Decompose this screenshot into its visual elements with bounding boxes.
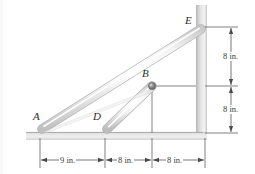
- dim-label-horizontal-1: 9 in.: [59, 156, 76, 165]
- label-point-e: E: [185, 15, 192, 26]
- dim-label-vertical-1: 8 in.: [222, 52, 239, 61]
- label-point-d: D: [93, 111, 101, 122]
- figure-background: [0, 0, 255, 174]
- background-left-tint: [0, 0, 34, 174]
- dim-label-vertical-2: 8 in.: [222, 105, 239, 114]
- pin-b-circle: [149, 83, 156, 90]
- dim-label-horizontal-2: 8 in.: [117, 156, 134, 165]
- pin-joint-b: [149, 83, 156, 90]
- figure-canvas: [0, 0, 255, 174]
- dim-label-horizontal-3: 8 in.: [166, 156, 183, 165]
- label-point-a: A: [33, 111, 40, 122]
- statics-figure: A B D E 9 in. 8 in. 8 in. 8 in. 8 in.: [0, 0, 255, 174]
- label-point-b: B: [142, 68, 149, 79]
- pin-b-specular: [150, 84, 152, 86]
- ground-surface: [26, 132, 207, 140]
